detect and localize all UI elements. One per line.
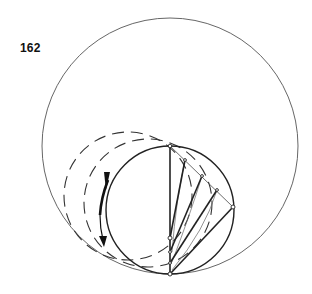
point-markers: [168, 144, 235, 276]
radial-line-1: [170, 160, 185, 238]
dashed-circle-position-2: [84, 139, 212, 267]
rotation-arrow-icon: [99, 172, 110, 247]
rolling-circle-diagram: [0, 0, 312, 294]
radial-line-4: [170, 207, 233, 274]
